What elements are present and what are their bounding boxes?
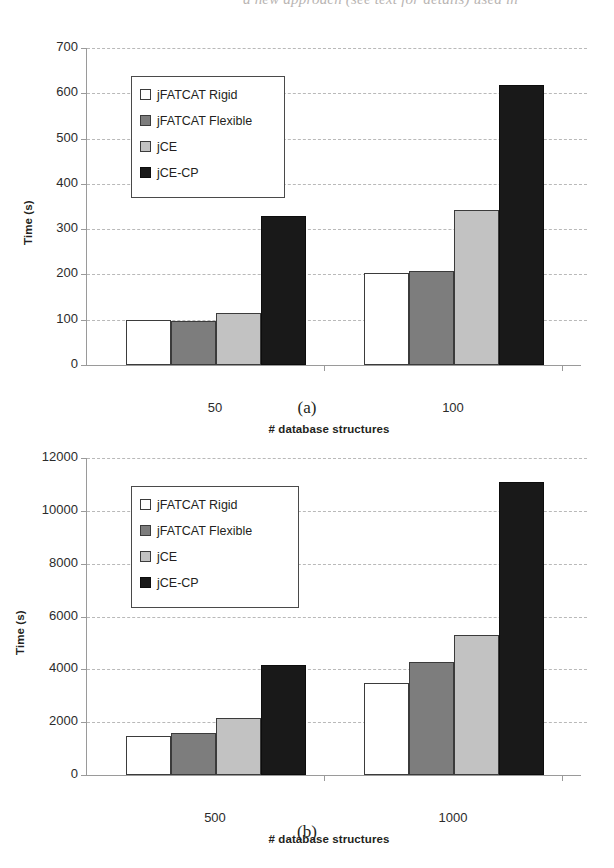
y-tick-label: 700 (26, 39, 78, 54)
y-tick-mark (81, 139, 87, 140)
y-tick-mark (81, 617, 87, 618)
legend-swatch-icon (140, 525, 151, 536)
y-tick-mark (81, 722, 87, 723)
legend-item-label: jFATCAT Flexible (157, 114, 252, 128)
caption-a: (a) (0, 398, 614, 418)
y-tick-mark (81, 48, 87, 49)
bar-chart-b-g0-s0 (126, 736, 171, 775)
figure-page: a new approach (see text for details) us… (0, 0, 614, 868)
legend-item-2: jCE (140, 546, 289, 567)
bar-chart-a-g0-s1 (171, 321, 216, 365)
x-axis-title: # database structures (22, 423, 614, 435)
y-gridline (87, 48, 587, 49)
bar-chart-b-g0-s1 (171, 733, 216, 775)
legend-item-label: jFATCAT Rigid (157, 498, 238, 512)
y-tick-mark (81, 669, 87, 670)
legend-item-label: jCE (157, 140, 177, 154)
caption-b: (b) (0, 822, 614, 842)
y-tick-label: 0 (26, 356, 78, 371)
legend-item-0: jFATCAT Rigid (140, 494, 289, 515)
y-tick-label: 2000 (26, 713, 78, 728)
legend-swatch-icon (140, 115, 151, 126)
y-tick-mark (81, 229, 87, 230)
legend-item-3: jCE-CP (140, 162, 275, 183)
y-tick-label: 4000 (26, 660, 78, 675)
legend-item-label: jCE (157, 550, 177, 564)
x-tick-mark (324, 775, 325, 781)
y-tick-mark (81, 511, 87, 512)
bar-chart-a-g1-s0 (364, 273, 409, 365)
y-axis-title: Time (s) (14, 610, 26, 655)
y-tick-mark (81, 365, 87, 366)
y-tick-label: 600 (26, 84, 78, 99)
x-tick-mark (324, 365, 325, 371)
y-tick-label: 300 (26, 220, 78, 235)
legend-swatch-icon (140, 167, 151, 178)
y-tick-mark (81, 93, 87, 94)
y-tick-mark (81, 775, 87, 776)
bar-chart-b-g0-s2 (216, 718, 261, 775)
bar-chart-a-g0-s0 (126, 320, 171, 365)
y-tick-label: 500 (26, 130, 78, 145)
bar-chart-b-g1-s1 (409, 662, 454, 775)
page-running-text: a new approach (see text for details) us… (0, 0, 614, 16)
bar-chart-a-g1-s2 (454, 210, 499, 365)
y-tick-label: 6000 (26, 608, 78, 623)
x-tick-mark (562, 365, 563, 371)
bar-chart-b-g1-s0 (364, 683, 409, 775)
legend-item-3: jCE-CP (140, 572, 289, 593)
y-tick-label: 100 (26, 311, 78, 326)
legend-swatch-icon (140, 141, 151, 152)
y-tick-mark (81, 320, 87, 321)
legend-item-label: jCE-CP (157, 166, 199, 180)
legend-swatch-icon (140, 499, 151, 510)
y-gridline (87, 458, 587, 459)
bar-chart-a-g0-s3 (261, 216, 306, 365)
bar-chart-b-g0-s3 (261, 665, 306, 775)
legend-swatch-icon (140, 89, 151, 100)
bar-chart-a-g0-s2 (216, 313, 261, 365)
legend-swatch-icon (140, 551, 151, 562)
legend-item-label: jCE-CP (157, 576, 199, 590)
legend-item-1: jFATCAT Flexible (140, 110, 275, 131)
bar-chart-a-g1-s1 (409, 271, 454, 365)
y-tick-label: 12000 (26, 449, 78, 464)
y-tick-mark (81, 458, 87, 459)
legend-item-2: jCE (140, 136, 275, 157)
running-text-line: a new approach (see text for details) us… (243, 0, 518, 8)
bar-chart-a-g1-s3 (499, 85, 544, 365)
x-tick-mark (562, 775, 563, 781)
legend-item-1: jFATCAT Flexible (140, 520, 289, 541)
y-tick-label: 8000 (26, 555, 78, 570)
legend-item-label: jFATCAT Flexible (157, 524, 252, 538)
legend-item-0: jFATCAT Rigid (140, 84, 275, 105)
y-tick-mark (81, 564, 87, 565)
figure-panel-a: Time (s)010020030040050060070050100# dat… (0, 30, 614, 430)
y-tick-label: 0 (26, 766, 78, 781)
bar-chart-b-g1-s3 (499, 482, 544, 775)
legend-item-label: jFATCAT Rigid (157, 88, 238, 102)
figure-panel-b: Time (s)02000400060008000100001200050010… (0, 440, 614, 860)
y-tick-label: 10000 (26, 502, 78, 517)
y-tick-label: 400 (26, 175, 78, 190)
bar-chart-b-g1-s2 (454, 635, 499, 775)
y-tick-label: 200 (26, 265, 78, 280)
y-tick-mark (81, 184, 87, 185)
legend-swatch-icon (140, 577, 151, 588)
chart-legend: jFATCAT RigidjFATCAT FlexiblejCEjCE-CP (131, 76, 285, 198)
y-tick-mark (81, 274, 87, 275)
chart-legend: jFATCAT RigidjFATCAT FlexiblejCEjCE-CP (131, 486, 299, 608)
